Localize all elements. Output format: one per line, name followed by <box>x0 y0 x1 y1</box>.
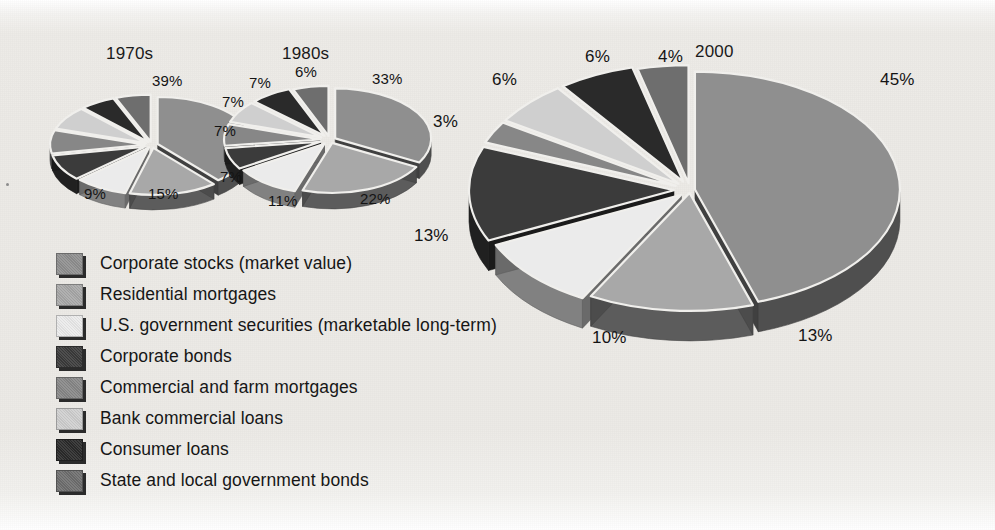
pct-label: 15% <box>148 185 179 202</box>
legend-label: Corporate stocks (market value) <box>100 253 352 274</box>
legend-swatch-us-government-securities <box>56 315 83 337</box>
pct-label: 9% <box>84 185 106 202</box>
legend-item: Corporate bonds <box>56 341 497 372</box>
pct-label: 3% <box>433 112 458 132</box>
legend-item: Consumer loans <box>56 434 497 465</box>
legend-swatch-corporate-stocks <box>56 253 83 275</box>
legend-item: State and local government bonds <box>56 465 497 496</box>
legend-swatch-corporate-bonds <box>56 346 83 368</box>
pct-label: 6% <box>585 47 610 67</box>
pct-label: 33% <box>372 70 403 87</box>
pct-label: 39% <box>152 72 183 89</box>
legend-item: Corporate stocks (market value) <box>56 248 497 279</box>
pct-label: 7% <box>249 74 271 91</box>
pct-label: 13% <box>798 326 833 346</box>
legend-swatch-state-local-bonds <box>56 470 83 492</box>
legend-swatch-bank-commercial-loans <box>56 408 83 430</box>
legend-label: State and local government bonds <box>100 470 369 491</box>
legend-label: Bank commercial loans <box>100 408 283 429</box>
pct-label: 6% <box>492 70 517 90</box>
pct-label: 7% <box>222 93 244 110</box>
pct-label: 13% <box>414 226 449 246</box>
pct-label: 10% <box>592 328 627 348</box>
legend-label: Commercial and farm mortgages <box>100 377 358 398</box>
legend-item: Commercial and farm mortgages <box>56 372 497 403</box>
pct-label: 7% <box>220 168 242 185</box>
legend: Corporate stocks (market value) Resident… <box>56 248 497 496</box>
legend-item: Bank commercial loans <box>56 403 497 434</box>
legend-label: Residential mortgages <box>100 284 276 305</box>
pct-label: 45% <box>880 70 915 90</box>
pct-label: 4% <box>658 47 683 67</box>
legend-swatch-consumer-loans <box>56 439 83 461</box>
pct-label: 11% <box>268 192 298 209</box>
pct-label: 22% <box>360 190 391 207</box>
legend-label: Consumer loans <box>100 439 229 460</box>
legend-item: U.S. government securities (marketable l… <box>56 310 497 341</box>
legend-swatch-residential-mortgages <box>56 284 83 306</box>
legend-item: Residential mortgages <box>56 279 497 310</box>
legend-swatch-commercial-farm-mortgages <box>56 377 83 399</box>
pct-label: 7% <box>214 122 236 139</box>
legend-label: Corporate bonds <box>100 346 232 367</box>
legend-label: U.S. government securities (marketable l… <box>100 315 497 336</box>
pct-label: 6% <box>295 63 317 80</box>
